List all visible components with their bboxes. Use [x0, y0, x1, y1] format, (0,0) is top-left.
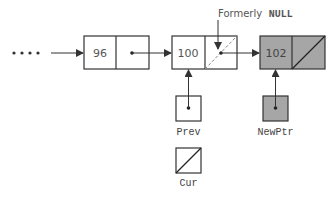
- linked-list-diagram: 96 100 Formerly NULL 102 Prev: [0, 0, 334, 198]
- pointer-label: Cur: [179, 178, 197, 189]
- prev-pointer: Prev: [176, 70, 201, 138]
- leading-dots: [12, 51, 39, 54]
- node-100: 100: [172, 36, 259, 69]
- node-102: 102: [260, 36, 325, 69]
- annotation-prefix: Formerly: [218, 8, 262, 19]
- svg-text:Formerly NULL: Formerly NULL: [218, 8, 293, 20]
- newptr-pointer: NewPtr: [257, 70, 293, 138]
- annotation-code: NULL: [269, 9, 293, 20]
- pointer-label: Prev: [176, 127, 200, 138]
- node-96: 96: [84, 36, 171, 69]
- node-value: 100: [178, 47, 199, 60]
- cur-pointer: Cur: [176, 148, 201, 189]
- node-value: 96: [93, 47, 107, 60]
- node-value: 102: [266, 47, 287, 60]
- pointer-label: NewPtr: [257, 127, 293, 138]
